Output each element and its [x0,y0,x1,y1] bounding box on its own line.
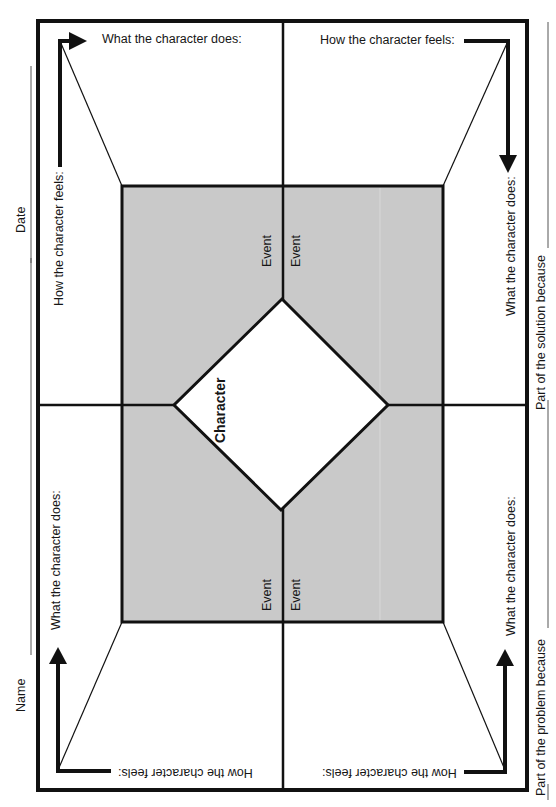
character-map-worksheet: Date Name Part of the solution because P… [0,0,556,807]
name-label: Name [15,679,28,712]
problem-label: Part of the problem because [535,639,548,796]
event-label-bottom-left: Event [261,579,274,611]
top-left-feels-label: How the character feels: [53,171,66,306]
corner-line-bottom-left [58,622,122,770]
arrow-top-right-icon [464,41,517,173]
event-label-bottom-right: Event [290,579,303,611]
solution-label: Part of the solution because [535,255,548,410]
character-label: Character [213,378,227,443]
worksheet-lines [0,0,556,807]
arrow-bottom-left-icon [49,647,111,771]
corner-line-top-left [60,41,122,186]
top-right-does-label: What the character does: [505,176,518,316]
bottom-left-does-label: What the character does: [50,490,63,630]
event-label-top-right: Event [290,235,303,267]
top-left-does-label: What the character does: [102,33,242,46]
date-label: Date [15,207,28,233]
corner-line-bottom-right [443,622,505,770]
event-label-top-left: Event [261,235,274,267]
corner-line-top-right [443,41,508,186]
bottom-left-feels-label: How the character feels: [118,766,253,779]
bottom-right-does-label: What the character does: [505,496,518,636]
arrow-bottom-right-icon [464,649,514,772]
top-right-feels-label: How the character feels: [320,34,455,47]
bottom-right-feels-label: How the character feels: [322,766,457,779]
arrow-top-left-icon [60,32,87,167]
